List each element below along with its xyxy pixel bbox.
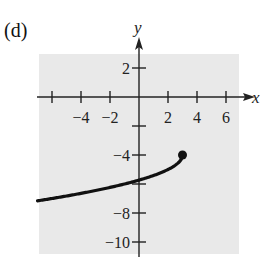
x-tick-label: 6	[222, 109, 230, 126]
x-tick-label: 4	[193, 109, 201, 126]
x-tick-label: −2	[101, 109, 118, 126]
y-tick-label: −8	[113, 205, 130, 222]
x-tick-label: 2	[164, 109, 172, 126]
chart: xy−4−22462−4−8−10	[0, 0, 261, 280]
endpoint-dot	[178, 151, 187, 160]
x-axis-label: x	[251, 88, 260, 107]
x-tick-label: −4	[72, 109, 89, 126]
y-tick-label: −4	[113, 147, 130, 164]
y-tick-label: 2	[122, 60, 130, 77]
y-axis-label: y	[132, 18, 142, 37]
y-tick-label: −10	[105, 234, 130, 251]
